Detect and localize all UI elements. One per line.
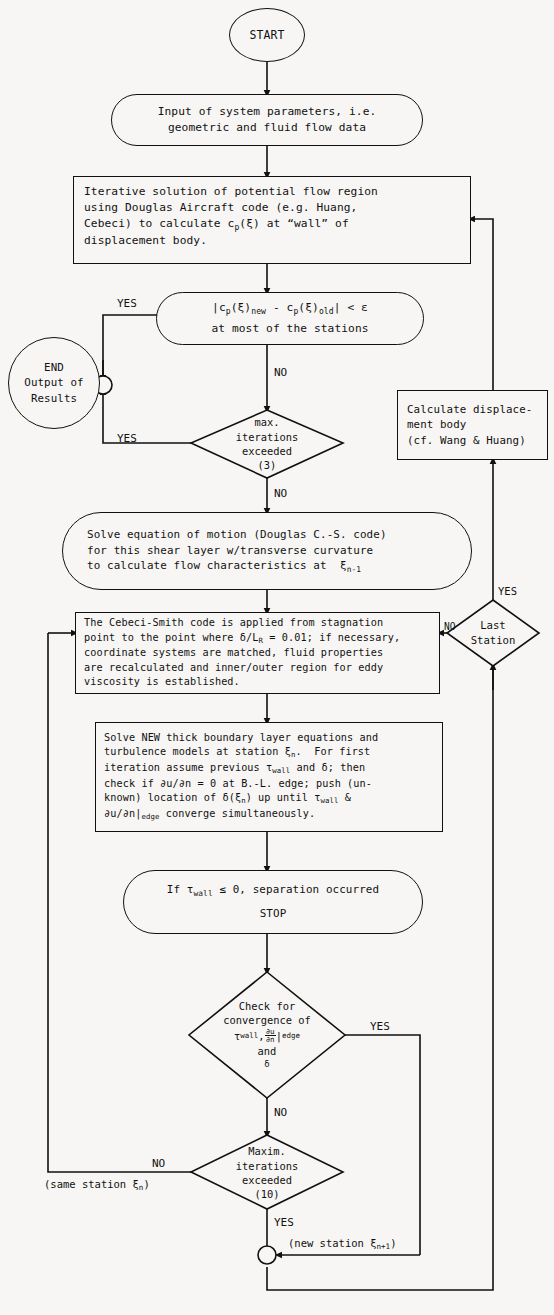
- potential-flow-line-2: using Douglas Aircraft code (e.g. Huang,: [84, 200, 357, 216]
- edge-label-no-laststation: NO: [444, 621, 456, 632]
- edge-label-yes-convergence: YES: [370, 1020, 390, 1033]
- separation-line-1: If τwall ≤ 0, separation occurred: [167, 882, 379, 899]
- separation-line-2: STOP: [260, 906, 287, 921]
- edge-label-yes-laststation: YES: [498, 585, 517, 597]
- calc-displacement-line-2: ment body: [407, 417, 466, 432]
- end-line-1: END: [44, 360, 64, 375]
- solve-eom-line-2: for this shear layer w/transverse curvat…: [87, 543, 373, 558]
- solve-new-bl-line-4: check if ∂u/∂n = 0 at B.-L. edge; push (…: [104, 777, 372, 791]
- flowchart-canvas: START Input of system parameters, i.e. g…: [0, 0, 554, 1315]
- solve-new-bl-line-1: Solve NEW thick boundary layer equations…: [104, 731, 378, 745]
- edge-label-yes-maxiter10: YES: [274, 1216, 294, 1229]
- node-end: END Output of Results: [8, 337, 100, 429]
- node-start: START: [229, 8, 305, 62]
- potential-flow-line-4: displacement body.: [84, 233, 207, 249]
- cebeci-smith-line-1: The Cebeci-Smith code is applied from st…: [84, 616, 383, 630]
- solve-eom-line-1: Solve equation of motion (Douglas C.-S. …: [87, 527, 387, 542]
- edge-label-no-maxiter10: NO: [152, 1157, 165, 1170]
- cebeci-smith-line-3: coordinate systems are matched, fluid pr…: [84, 646, 383, 660]
- edge-label-yes-cp: YES: [117, 297, 137, 310]
- node-cp-convergence-test: |cp(ξ)new - cp(ξ)old| < ε at most of the…: [156, 292, 424, 345]
- edge-label-yes-maxiter3: YES: [117, 432, 137, 445]
- node-calculate-displacement-body: Calculate displace- ment body (cf. Wang …: [397, 390, 548, 460]
- cebeci-smith-line-4: are recalculated and inner/outer region …: [84, 661, 383, 675]
- node-solve-equation-of-motion: Solve equation of motion (Douglas C.-S. …: [62, 512, 472, 590]
- solve-eom-line-3: to calculate flow characteristics at ξn-…: [87, 558, 361, 575]
- node-potential-flow: Iterative solution of potential flow reg…: [73, 176, 471, 264]
- input-line-1: Input of system parameters, i.e.: [158, 104, 377, 120]
- input-line-2: geometric and fluid flow data: [168, 120, 366, 136]
- edge-label-no-convergence: NO: [274, 1106, 287, 1119]
- start-label: START: [249, 27, 284, 43]
- solve-new-bl-line-5: known) location of δ(ξn) up until τwall …: [104, 791, 351, 807]
- node-input: Input of system parameters, i.e. geometr…: [111, 94, 423, 146]
- edge-label-no-maxiter3: NO: [274, 487, 287, 500]
- node-separation-stop: If τwall ≤ 0, separation occurred STOP: [123, 870, 423, 934]
- solve-new-bl-line-6: ∂u/∂n|edge converge simultaneously.: [104, 807, 315, 823]
- cebeci-smith-line-2: point to the point where δ/LR = 0.01; if…: [84, 631, 400, 647]
- calc-displacement-line-1: Calculate displace-: [407, 402, 532, 417]
- edge-label-no-cp: NO: [274, 366, 287, 379]
- node-solve-new-boundary-layer: Solve NEW thick boundary layer equations…: [95, 722, 443, 832]
- cp-test-line-1: |cp(ξ)new - cp(ξ)old| < ε: [212, 300, 368, 317]
- potential-flow-line-3: Cebeci) to calculate cp(ξ) at “wall” of: [84, 216, 349, 233]
- solve-new-bl-line-3: iteration assume previous τwall and δ; t…: [104, 761, 365, 777]
- node-cebeci-smith-code: The Cebeci-Smith code is applied from st…: [75, 612, 440, 694]
- edge-label-new-station: (new station ξn+1): [288, 1237, 396, 1251]
- edge-label-same-station: (same station ξn): [44, 1178, 150, 1192]
- solve-new-bl-line-2: turbulence models at station ξn. For fir…: [104, 745, 370, 761]
- potential-flow-line-1: Iterative solution of potential flow reg…: [84, 184, 378, 200]
- cebeci-smith-line-5: viscosity is established.: [84, 675, 240, 689]
- end-line-3: Results: [31, 391, 77, 406]
- cp-test-line-2: at most of the stations: [211, 321, 368, 337]
- calc-displacement-line-3: (cf. Wang & Huang): [407, 433, 526, 448]
- end-line-2: Output of: [24, 375, 83, 390]
